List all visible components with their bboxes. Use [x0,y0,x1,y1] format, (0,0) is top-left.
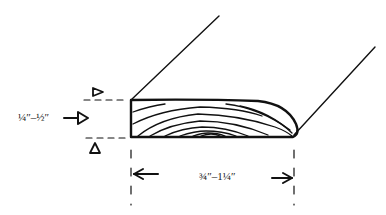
width-right-arrow-icon [272,173,292,183]
wood-grain [133,104,292,136]
right-receding-edge [294,47,375,135]
thickness-label: ¼″–½″ [18,111,49,123]
thickness-top-arrow-icon [93,88,103,96]
width-left-arrow-icon [134,169,158,179]
left-receding-edge [131,16,219,100]
width-label: ¾″–1¼″ [199,170,236,182]
board-diagram [0,0,386,215]
thickness-side-arrow-icon [64,112,88,124]
thickness-bottom-arrow-icon [90,143,100,153]
